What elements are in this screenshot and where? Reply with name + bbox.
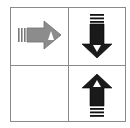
cell-bottom-left <box>11 66 68 121</box>
arrow-up-icon <box>69 66 126 121</box>
arrow-down-icon <box>69 8 126 65</box>
arrow-right-icon <box>11 8 68 65</box>
cell-bottom-right <box>69 66 126 121</box>
cell-top-left <box>11 8 68 65</box>
cell-top-right <box>69 8 126 65</box>
